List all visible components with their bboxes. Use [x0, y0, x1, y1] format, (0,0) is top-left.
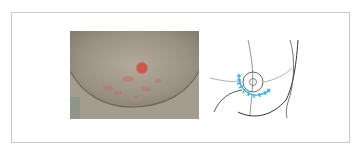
clinical-photo [70, 31, 199, 119]
schematic-graphic [208, 38, 303, 118]
schematic-diagram [208, 38, 303, 118]
clinical-photo-graphic [70, 31, 199, 119]
affected-area-marker [237, 74, 270, 98]
